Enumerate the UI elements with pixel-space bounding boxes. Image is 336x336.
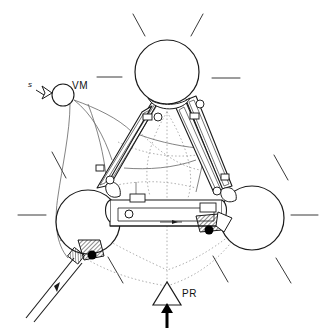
left-bearing-dot bbox=[88, 251, 97, 260]
vm-marker bbox=[36, 84, 74, 106]
diagram-canvas: VM PR s bbox=[0, 0, 336, 336]
pivot-top-left bbox=[154, 113, 162, 121]
axis-dash-right-sw bbox=[213, 256, 228, 282]
pr-label: PR bbox=[182, 288, 197, 299]
vm-circle bbox=[52, 84, 74, 106]
wire-cross-2 bbox=[124, 160, 196, 169]
wire-vm-2 bbox=[74, 100, 112, 160]
axis-dash-left-nw bbox=[52, 152, 66, 178]
pivot-block-right-low bbox=[221, 174, 229, 180]
axis-dash-right-se bbox=[276, 258, 291, 283]
pr-triangle bbox=[153, 282, 181, 305]
axis-dash-top-left bbox=[133, 14, 145, 36]
fitting-right-block bbox=[200, 203, 216, 212]
rod-edge-a bbox=[26, 258, 74, 318]
curve-c3 bbox=[112, 182, 196, 188]
pivot-block-left-low bbox=[96, 165, 104, 171]
fitting-left-block bbox=[130, 194, 145, 202]
collar-right bbox=[221, 188, 237, 202]
top-sphere bbox=[135, 40, 199, 104]
strut-left-pivot bbox=[125, 210, 133, 218]
pivot-left-arm bbox=[106, 176, 114, 184]
vm-label: VM bbox=[72, 80, 88, 91]
vm-hollow-arrow bbox=[42, 86, 52, 99]
pivot-block-left bbox=[143, 114, 152, 120]
pr-support bbox=[153, 282, 181, 328]
right-bearing-dot bbox=[205, 226, 214, 235]
wire-vm-1 bbox=[74, 100, 132, 132]
axis-dash-left-se bbox=[108, 257, 123, 283]
arm-upper-left bbox=[97, 97, 161, 188]
pivot-right-arm bbox=[213, 187, 221, 195]
wire-vm-3 bbox=[58, 104, 70, 196]
wire-drop-2 bbox=[196, 166, 202, 192]
axis-dash-right-ne bbox=[274, 155, 288, 180]
rod-edge-b bbox=[34, 263, 82, 322]
axis-dash-top-right bbox=[191, 14, 203, 36]
collar-left bbox=[106, 182, 121, 197]
pivot-block-right bbox=[190, 113, 199, 119]
pivot-top-right bbox=[196, 100, 204, 108]
mechanism-drawing bbox=[0, 0, 336, 336]
s-dot-label: s bbox=[28, 80, 33, 89]
actuator-rod bbox=[26, 258, 82, 322]
vm-arrow-tail bbox=[36, 90, 44, 95]
